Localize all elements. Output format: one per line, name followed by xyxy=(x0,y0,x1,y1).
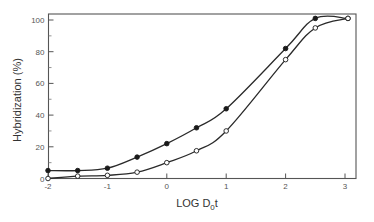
x-tick-label: -1 xyxy=(104,182,112,191)
x-axis-label-tail: t xyxy=(215,197,218,209)
open-circle-marker xyxy=(194,148,199,153)
open-circle-marker xyxy=(135,170,140,175)
y-tick-label: 80 xyxy=(36,48,45,57)
filled-circle-marker xyxy=(46,168,51,173)
open-circle-marker xyxy=(165,160,170,165)
y-tick-label: 100 xyxy=(31,16,45,25)
open-circle-marker xyxy=(313,26,318,31)
open-circle-marker xyxy=(46,176,51,181)
open-circle-marker xyxy=(346,16,351,21)
filled-circle-marker xyxy=(194,125,199,130)
y-axis-label: Hybridization (%) xyxy=(11,58,23,142)
filled-circle-marker xyxy=(313,16,318,21)
y-tick-label: 60 xyxy=(36,79,45,88)
filled-circle-marker xyxy=(224,106,229,111)
open-circle-marker xyxy=(224,129,229,134)
x-tick-label: 3 xyxy=(343,182,348,191)
x-axis-label-main: LOG D xyxy=(176,197,210,209)
open-circle-marker xyxy=(105,173,110,178)
background xyxy=(0,0,374,222)
x-tick-label: 1 xyxy=(224,182,229,191)
y-tick-label: 40 xyxy=(36,111,45,120)
x-tick-label: 0 xyxy=(165,182,170,191)
filled-circle-marker xyxy=(75,168,80,173)
hybridization-chart: 020406080100 -2-10123 Hybridization (%) … xyxy=(0,0,374,222)
filled-circle-marker xyxy=(283,46,288,51)
filled-circle-marker xyxy=(165,141,170,146)
y-tick-label: 20 xyxy=(36,143,45,152)
filled-circle-marker xyxy=(135,155,140,160)
x-tick-label: -2 xyxy=(44,182,52,191)
open-circle-marker xyxy=(283,57,288,62)
open-circle-marker xyxy=(75,174,80,179)
filled-circle-marker xyxy=(105,166,110,171)
x-tick-label: 2 xyxy=(283,182,288,191)
